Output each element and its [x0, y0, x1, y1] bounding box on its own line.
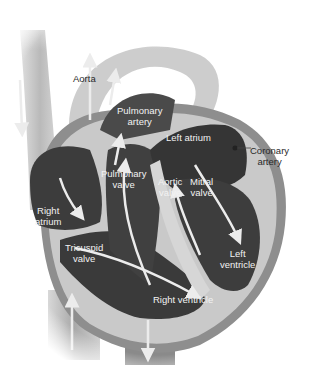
label-left-ventricle-line2: ventricle [220, 259, 255, 270]
label-right-atrium-line1: Right [35, 205, 61, 216]
label-right-atrium: Right atrium [35, 205, 61, 227]
label-tricuspid-valve: Tricuspid valve [65, 242, 103, 264]
heart-diagram: Aorta Pulmonary artery Left atrium Coron… [0, 0, 313, 370]
label-tricuspid-valve-line1: Tricuspid [65, 242, 103, 253]
label-aortic-valve-line2: valve [158, 187, 182, 198]
label-pulmonary-artery: Pulmonary artery [117, 105, 162, 127]
label-pulmonary-artery-line2: artery [117, 116, 162, 127]
label-mitral-valve-line1: Mitral [190, 176, 213, 187]
label-left-ventricle: Left ventricle [220, 248, 255, 270]
label-mitral-valve-line2: valve [190, 187, 213, 198]
heart-illustration [0, 0, 313, 370]
label-mitral-valve: Mitral valve [190, 176, 213, 198]
label-coronary-artery: Coronary artery [250, 145, 289, 167]
label-aortic-valve: Aortic valve [158, 176, 182, 198]
label-left-ventricle-line1: Left [220, 248, 255, 259]
label-pulmonary-valve-line1: Pulmonary [101, 168, 146, 179]
label-right-atrium-line2: atrium [35, 216, 61, 227]
label-pulmonary-valve: Pulmonary valve [101, 168, 146, 190]
label-aortic-valve-line1: Aortic [158, 176, 182, 187]
label-tricuspid-valve-line2: valve [65, 253, 103, 264]
label-coronary-artery-line2: artery [250, 156, 289, 167]
label-right-ventricle: Right ventricle [153, 294, 213, 305]
label-coronary-artery-line1: Coronary [250, 145, 289, 156]
label-pulmonary-valve-line2: valve [101, 179, 146, 190]
label-aorta: Aorta [73, 73, 96, 84]
label-pulmonary-artery-line1: Pulmonary [117, 105, 162, 116]
label-left-atrium: Left atrium [166, 132, 211, 143]
